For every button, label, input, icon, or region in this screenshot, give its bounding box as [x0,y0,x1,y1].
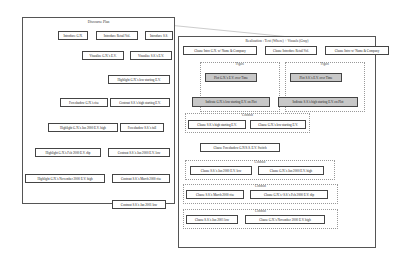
node-clause-ss-march[interactable]: Clause S.S.'s March 2000 rise [186,190,244,199]
node-highlight-gn-nov[interactable]: Highlight G.N.'s November 2000 E.V. high [25,174,105,183]
node-highlight-gn-feb[interactable]: Highlight G.N.'s Feb 2000 E.V. dip [35,148,101,157]
node-introduce-retail[interactable]: Introduce Retail Vol. [96,31,138,40]
node-clause-gn-nov[interactable]: Clause G.N.'s November 2000 E.V. high [245,215,325,224]
node-visualize-ss[interactable]: Visualize S.S.'s E.V. [130,51,172,60]
node-clause-intro-gn[interactable]: Clause Intro G.N. w/ Name & Company [183,46,257,55]
node-clause-intro-retail[interactable]: Clause Introduce Retail Vol. [265,46,317,55]
node-highlight-gn-low[interactable]: Highlight G.N.'s low starting E.V. [108,75,170,84]
node-indicate-gn[interactable]: Indicate G.N.'s low starting E.V. on Plo… [192,97,270,107]
node-clause-gn-jan[interactable]: Clause G.N.'s Jan 2000 E.V. high [258,166,324,175]
node-indicate-ss[interactable]: Indicate S.S.'s high starting E.V. on Pl… [278,97,358,107]
node-highlight-gn-jan[interactable]: Highlight G.N.'s Jan 2000 E.V. high [48,123,118,132]
panel-title: Discourse Plan [23,20,174,24]
node-plot-gn[interactable]: Plot G.N.'s E.V. over Time [205,73,257,82]
node-clause-ss-jan[interactable]: Clause S.S.'s Jan 2000 E.V. low [190,166,252,175]
node-contrast-ss-march[interactable]: Contrast S.S.'s March 2000 rise [112,174,170,183]
node-clause-gn-low[interactable]: Clause G.N.'s low starting E.V. [250,120,306,129]
node-clause-foreshadow[interactable]: Clause Foreshadow G.N/S.S. E.V. Switch [200,143,280,152]
node-foreshadow-ss[interactable]: Foreshadow S.S.'s fall [120,123,164,132]
node-foreshadow-gn[interactable]: Foreshadow G.N.'s rise [60,98,108,107]
panel-title: Realization : Text (Where) + Visuals (Gr… [179,39,375,43]
node-contrast-ss-high[interactable]: Contrast S.S.'s high starting E.V. [110,98,170,107]
node-introduce-ss[interactable]: Introduce S.S. [145,31,173,40]
node-introduce-gn[interactable]: Introduce G.N. [58,31,88,40]
node-contrast-ss-jan[interactable]: Contrast S.S.'s Jan 2000 E.V. low [108,148,170,157]
node-plot-ss[interactable]: Plot S.S.'s E.V. over Time [290,73,342,82]
node-contrast-ss-jan2001[interactable]: Contrast S.S.'s Jan 2001 low [112,200,166,209]
node-clause-ss-jan2001[interactable]: Clause S.S.'s Jan 2001 low [186,215,238,224]
node-clause-ss-high[interactable]: Clause S.S.'s high starting E.V. [188,120,246,129]
node-visualize-gn[interactable]: Visualize G.N.'s E.V. [82,51,124,60]
node-clause-intro-ss[interactable]: Clause Intro w/ Name & Company [325,46,389,55]
node-clause-gn-ss-feb[interactable]: Clause G.N.'s+S.S.'s Feb 2000 E.V. dip [250,190,328,199]
